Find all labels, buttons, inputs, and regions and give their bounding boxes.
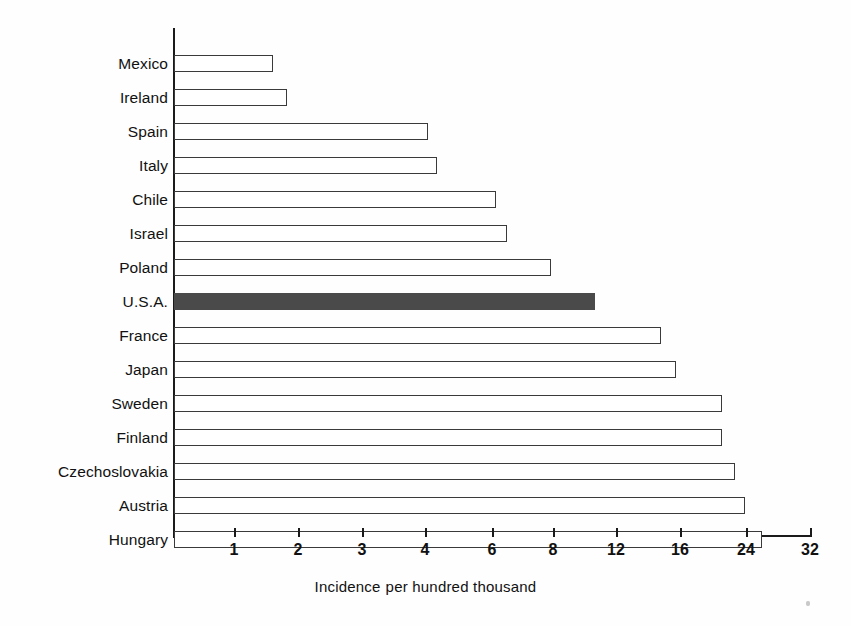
bar-category-label: Ireland: [120, 81, 168, 115]
bar: [174, 89, 287, 106]
x-axis-tick-label: 16: [660, 541, 700, 559]
bar-row: Mexico: [0, 47, 851, 81]
bar: [174, 157, 437, 174]
x-axis-tick-label: 3: [342, 541, 382, 559]
bar: [174, 191, 496, 208]
bar-category-label: Chile: [132, 183, 168, 217]
bar-category-label: France: [119, 319, 168, 353]
bar: [174, 395, 722, 412]
bar-row: U.S.A.: [0, 285, 851, 319]
bar-row: France: [0, 319, 851, 353]
bar: [174, 225, 507, 242]
x-axis-title: Incidenceper hundred thousand: [0, 578, 851, 595]
x-axis-tick-label: 2: [278, 541, 318, 559]
bar-category-label: Israel: [129, 217, 168, 251]
bar-row: Israel: [0, 217, 851, 251]
bar-category-label: Czechoslovakia: [58, 455, 168, 489]
bar-category-label: Austria: [119, 489, 168, 523]
x-axis-tick: [492, 528, 494, 537]
bar: [174, 327, 661, 344]
x-axis-tick: [746, 528, 748, 537]
x-axis-tick-label: 32: [790, 541, 830, 559]
bar-row: Austria: [0, 489, 851, 523]
bar-category-label: Italy: [139, 149, 168, 183]
bar-category-label: U.S.A.: [123, 285, 168, 319]
bar-row: Spain: [0, 115, 851, 149]
x-axis-tick-label: 24: [726, 541, 766, 559]
chart-page: MexicoIrelandSpainItalyChileIsraelPoland…: [0, 0, 851, 626]
x-axis-title-part: per hundred thousand: [386, 578, 537, 595]
bar: [174, 361, 676, 378]
x-axis-tick-label: 8: [533, 541, 573, 559]
bar-row: Japan: [0, 353, 851, 387]
bar-row: Finland: [0, 421, 851, 455]
bar-row: Italy: [0, 149, 851, 183]
bar-category-label: Finland: [116, 421, 168, 455]
bar: [174, 55, 273, 72]
bar-chart: MexicoIrelandSpainItalyChileIsraelPoland…: [0, 0, 851, 626]
bar-category-label: Japan: [125, 353, 168, 387]
bar: [174, 429, 722, 446]
x-axis-tick-label: 4: [405, 541, 445, 559]
bar-category-label: Spain: [128, 115, 168, 149]
bar: [174, 497, 745, 514]
bar-category-label: Mexico: [118, 47, 168, 81]
x-axis-tick-label: 12: [596, 541, 636, 559]
bar-category-label: Poland: [119, 251, 168, 285]
bar-row: Sweden: [0, 387, 851, 421]
x-axis-tick-label: 1: [214, 541, 254, 559]
x-axis-tick: [616, 528, 618, 537]
bar-row: Chile: [0, 183, 851, 217]
x-axis-tick: [362, 528, 364, 537]
x-axis-tick-label: 6: [472, 541, 512, 559]
x-axis-tick: [680, 528, 682, 537]
x-axis-tick: [810, 528, 812, 537]
bar-row: Poland: [0, 251, 851, 285]
scan-artifact-speck: [806, 601, 810, 606]
bar: [174, 463, 735, 480]
bar-row: Ireland: [0, 81, 851, 115]
bar-highlighted: [174, 293, 595, 310]
x-axis-tick: [425, 528, 427, 537]
bar: [174, 123, 428, 140]
x-axis-tick: [553, 528, 555, 537]
bar-category-label: Sweden: [111, 387, 168, 421]
x-axis-title-part: Incidence: [315, 578, 381, 595]
x-axis-tick: [298, 528, 300, 537]
bars-layer: MexicoIrelandSpainItalyChileIsraelPoland…: [0, 0, 851, 560]
bar-row: Czechoslovakia: [0, 455, 851, 489]
bar: [174, 259, 551, 276]
bar-category-label: Hungary: [109, 523, 168, 557]
x-axis-tick: [234, 528, 236, 537]
